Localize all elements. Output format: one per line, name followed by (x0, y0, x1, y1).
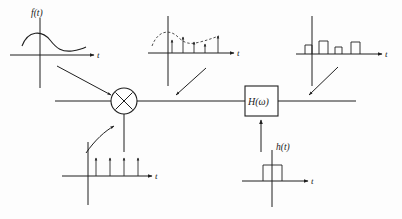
pam-pulse (351, 42, 360, 54)
pam-pulse (335, 47, 342, 54)
pam-pulse (319, 41, 328, 54)
input-signal-plot: f(t) t (10, 8, 100, 88)
pam-pulse (305, 45, 312, 54)
pulse-shape-label: h(t) (276, 142, 290, 153)
multiplier-block[interactable] (111, 88, 137, 152)
pam-plot-axis-label: t (385, 49, 388, 59)
sampled-plot-axis-label: t (237, 48, 240, 58)
connector-sampled-to-path (176, 68, 206, 95)
connector-train-to-multiplier (86, 126, 114, 153)
pulse-plot-axis-label: t (311, 176, 314, 186)
filter-block[interactable]: H(ω) (245, 86, 278, 152)
filter-block-label: H(ω) (247, 96, 270, 108)
input-signal-label: f(t) (31, 8, 43, 19)
connector-pam-to-path (309, 67, 338, 95)
input-waveform (22, 33, 86, 51)
sampled-envelope (152, 32, 219, 46)
diagram-canvas: f(t) t t t (0, 0, 402, 219)
train-plot-axis-label: t (155, 171, 158, 181)
sampled-signal-plot: t (148, 16, 240, 86)
connector-input-to-path (57, 66, 111, 95)
impulse-train-plot: t (62, 142, 158, 205)
input-plot-axis-label: t (97, 50, 100, 60)
pam-output-plot: t (296, 16, 388, 86)
pulse-shape-plot: h(t) t (242, 142, 314, 207)
signal-flow-diagram: f(t) t t t (0, 0, 402, 219)
